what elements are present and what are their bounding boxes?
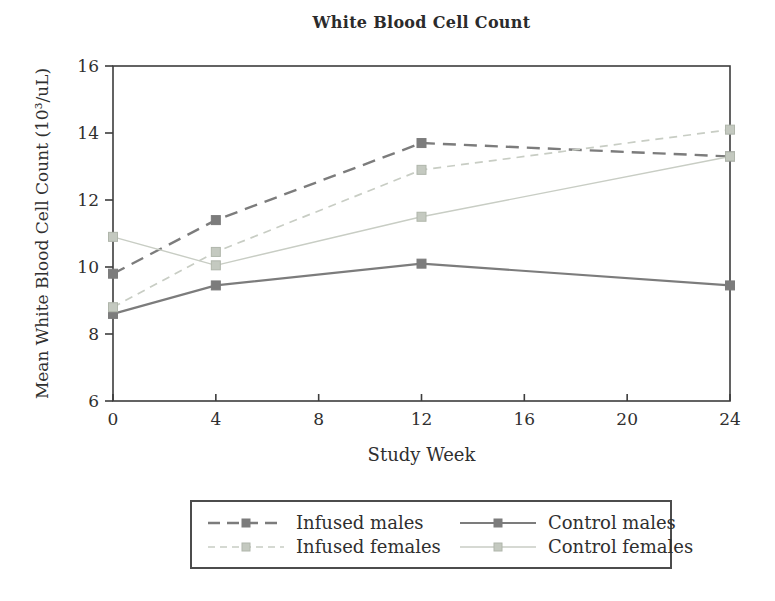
legend-line-sample-control-males xyxy=(458,515,538,531)
chart-legend: Infused malesControl malesInfused female… xyxy=(190,500,672,569)
plot-border xyxy=(113,66,730,401)
x-axis-title: Study Week xyxy=(368,444,477,465)
legend-item-control-females: Control females xyxy=(458,536,693,557)
data-point-marker-infused-males xyxy=(109,269,118,278)
legend-label-infused-females: Infused females xyxy=(296,536,441,557)
legend-item-infused-females: Infused females xyxy=(206,536,458,557)
series-line-infused-males xyxy=(113,143,730,274)
y-tick-label: 8 xyxy=(88,324,99,344)
x-tick-label: 12 xyxy=(411,409,433,429)
x-tick-label: 8 xyxy=(313,409,324,429)
legend-line-sample-infused-males xyxy=(206,515,286,531)
x-tick-label: 16 xyxy=(514,409,536,429)
legend-line-sample-control-females xyxy=(458,539,538,555)
data-point-marker-infused-males xyxy=(417,139,426,148)
data-point-marker-infused-females xyxy=(417,165,426,174)
data-point-marker-control-males xyxy=(211,281,220,290)
wbc-line-chart-figure: White Blood Cell Count 68101214160481216… xyxy=(0,0,775,601)
data-point-marker-control-females xyxy=(417,212,426,221)
data-point-marker-control-males xyxy=(417,259,426,268)
legend-sample-marker xyxy=(242,543,250,551)
legend-label-control-females: Control females xyxy=(548,536,693,557)
data-point-marker-infused-females xyxy=(109,303,118,312)
legend-line-sample-infused-females xyxy=(206,539,286,555)
data-point-marker-infused-males xyxy=(211,216,220,225)
y-tick-label: 14 xyxy=(77,123,99,143)
legend-sample-marker xyxy=(242,519,250,527)
data-point-marker-control-males xyxy=(726,281,735,290)
data-point-marker-control-females xyxy=(109,232,118,241)
data-point-marker-infused-females xyxy=(211,247,220,256)
y-tick-label: 16 xyxy=(77,56,99,76)
legend-item-infused-males: Infused males xyxy=(206,512,458,533)
legend-sample-marker xyxy=(494,519,502,527)
legend-label-infused-males: Infused males xyxy=(296,512,424,533)
x-tick-label: 4 xyxy=(210,409,221,429)
y-tick-label: 6 xyxy=(88,391,99,411)
x-tick-label: 20 xyxy=(616,409,638,429)
x-tick-label: 24 xyxy=(719,409,741,429)
y-tick-label: 10 xyxy=(77,257,99,277)
legend-sample-marker xyxy=(494,543,502,551)
x-tick-label: 0 xyxy=(108,409,119,429)
series-line-control-males xyxy=(113,264,730,314)
data-point-marker-control-females xyxy=(726,152,735,161)
data-point-marker-control-females xyxy=(211,261,220,270)
y-tick-label: 12 xyxy=(77,190,99,210)
data-point-marker-infused-females xyxy=(726,125,735,134)
chart-plot-svg: 681012141604812162024Study WeekMean Whit… xyxy=(0,0,775,480)
legend-item-control-males: Control males xyxy=(458,512,693,533)
y-axis-title: Mean White Blood Cell Count (10³/uL) xyxy=(32,68,52,399)
legend-label-control-males: Control males xyxy=(548,512,676,533)
